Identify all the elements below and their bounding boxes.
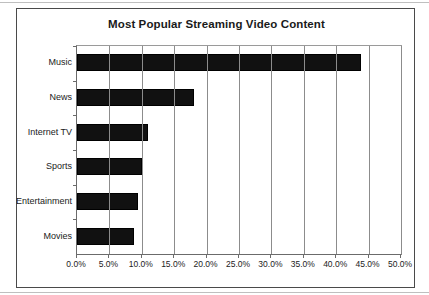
x-tick [173, 254, 174, 258]
category-tick [73, 185, 77, 186]
x-tick-label: 25.0% [226, 259, 250, 269]
bar-music [77, 54, 361, 71]
category-label-entertainment: Entertainment [16, 196, 72, 206]
gridline-450 [369, 46, 370, 254]
x-tick [238, 254, 239, 258]
x-tick-label: 20.0% [194, 259, 218, 269]
category-tick [73, 81, 77, 82]
x-tick [368, 254, 369, 258]
gridline-100 [142, 46, 143, 254]
x-tick [108, 254, 109, 258]
plot-area [76, 45, 402, 255]
x-tick-label: 50.0% [388, 259, 412, 269]
category-tick [73, 150, 77, 151]
category-tick [73, 219, 77, 220]
category-axis-labels: MusicNewsInternet TVSportsEntertainmentM… [17, 45, 72, 253]
x-tick-label: 40.0% [323, 259, 347, 269]
x-tick [206, 254, 207, 258]
x-tick [303, 254, 304, 258]
category-tick [73, 46, 77, 47]
x-tick-label: 0.0% [66, 259, 85, 269]
chart-frame: Most Popular Streaming Video Content Mus… [16, 8, 415, 288]
chart-page: Most Popular Streaming Video Content Mus… [0, 0, 429, 295]
scan-rule-bottom [0, 292, 429, 293]
category-tick [73, 115, 77, 116]
chart-title: Most Popular Streaming Video Content [17, 18, 416, 30]
gridline-350 [304, 46, 305, 254]
bar-news [77, 89, 194, 106]
scan-rule-top [0, 2, 429, 3]
gridline-50 [109, 46, 110, 254]
gridline-300 [271, 46, 272, 254]
category-label-movies: Movies [43, 231, 72, 241]
x-tick [270, 254, 271, 258]
category-label-music: Music [48, 57, 72, 67]
x-tick-label: 15.0% [161, 259, 185, 269]
x-tick-label: 35.0% [291, 259, 315, 269]
x-tick [400, 254, 401, 258]
x-tick [335, 254, 336, 258]
gridline-250 [239, 46, 240, 254]
bar-entertainment [77, 193, 138, 210]
x-tick [141, 254, 142, 258]
x-tick-label: 5.0% [99, 259, 118, 269]
x-tick-label: 30.0% [258, 259, 282, 269]
x-axis-tick-labels: 0.0%5.0%10.0%15.0%20.0%25.0%30.0%35.0%40… [76, 259, 400, 273]
x-tick-label: 45.0% [356, 259, 380, 269]
gridline-400 [336, 46, 337, 254]
x-tick [76, 254, 77, 258]
category-label-internet-tv: Internet TV [28, 127, 72, 137]
x-tick-label: 10.0% [129, 259, 153, 269]
bar-movies [77, 228, 134, 245]
gridline-500 [401, 46, 402, 254]
category-label-sports: Sports [46, 161, 72, 171]
category-label-news: News [49, 92, 72, 102]
gridline-200 [207, 46, 208, 254]
bar-internet-tv [77, 124, 148, 141]
gridline-150 [174, 46, 175, 254]
